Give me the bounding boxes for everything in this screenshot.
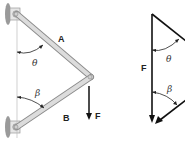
beta-label-right: β bbox=[166, 84, 172, 94]
theta-label-left: θ bbox=[32, 58, 38, 68]
label-a: A bbox=[58, 34, 65, 44]
label-f-left: F bbox=[95, 111, 101, 121]
beta-arc-left bbox=[17, 97, 44, 108]
force-vector-a bbox=[152, 14, 185, 41]
joint-pin bbox=[88, 75, 92, 79]
theta-arc-right bbox=[152, 39, 179, 51]
truss-diagram: A B F θ β F θ β bbox=[0, 0, 185, 150]
theta-label-right: θ bbox=[166, 54, 172, 64]
force-vector-b bbox=[160, 100, 185, 120]
force-arrow-left bbox=[86, 86, 92, 120]
beta-arc-right bbox=[152, 92, 177, 105]
label-f-right: F bbox=[141, 63, 147, 73]
theta-arc-left bbox=[17, 45, 43, 53]
force-triangle bbox=[149, 14, 185, 124]
member-b bbox=[17, 77, 91, 127]
member-a bbox=[17, 14, 91, 77]
beta-label-left: β bbox=[34, 88, 40, 98]
label-b: B bbox=[63, 113, 70, 123]
